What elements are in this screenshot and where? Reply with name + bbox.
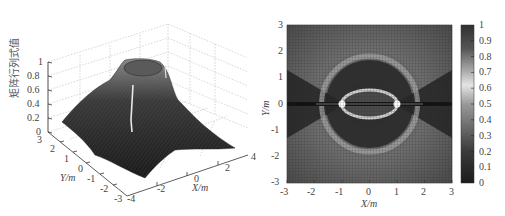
colorbar-tick-label: 0.3 [479, 130, 492, 141]
y-tick-label: 2 [278, 45, 283, 56]
heatmap-graphics [250, 0, 505, 216]
y-tick-label: 2 [50, 143, 55, 154]
z-tick-label: 1 [38, 56, 43, 67]
x-tick-label: -2 [307, 186, 315, 197]
x-tick-label: 1 [394, 186, 399, 197]
y-tick-label: 3 [278, 19, 283, 30]
y-tick-label: -1 [87, 173, 95, 184]
z-tick-label: 0.6 [27, 84, 40, 95]
colorbar-tick-label: 0.9 [479, 35, 492, 46]
colorbar-tick-label: 0.6 [479, 82, 492, 93]
z-tick-label: 0.4 [27, 98, 40, 109]
y-tick-label: -3 [271, 176, 279, 187]
x-axis-label: X/m [361, 198, 377, 209]
colorbar-tick-label: 1 [479, 19, 484, 30]
y-tick-label: 0 [278, 98, 283, 109]
heatmap-plot: 3 2 1 0 -1 -2 -3 Y/m -3 -2 -1 0 1 2 3 X/… [250, 0, 505, 216]
y-tick-label: -2 [271, 150, 279, 161]
y-tick-label: 1 [278, 71, 283, 82]
y-tick-label: 3 [37, 134, 42, 145]
surface-plot: 矩阵行列式值 1 0.8 0.6 0.4 0.2 0 3 2 1 0 -1 -2… [0, 0, 255, 216]
y-tick-label: -2 [100, 183, 108, 194]
colorbar-tick-label: 0 [479, 177, 484, 188]
y-axis-label: Y/m [260, 100, 271, 116]
z-tick-label: 0.2 [27, 112, 40, 123]
y-tick-label: -1 [271, 124, 279, 135]
colorbar-tick-label: 0.7 [479, 66, 492, 77]
colorbar-tick-label: 0.1 [479, 161, 492, 172]
x-tick-label: -3 [280, 186, 288, 197]
x-tick-label: 3 [449, 186, 454, 197]
x-tick-label: -2 [157, 183, 165, 194]
y-tick-label: 0 [78, 163, 83, 174]
x-axis-label: X/m [192, 182, 208, 193]
surface-plateau [124, 60, 162, 76]
z-tick-label: 0.8 [27, 70, 40, 81]
colorbar-tick-label: 0.5 [479, 98, 492, 109]
x-tick-label: 2 [421, 186, 426, 197]
x-tick-label: -4 [127, 193, 135, 204]
x-tick-label: 0 [366, 186, 371, 197]
colorbar-tick-label: 0.4 [479, 114, 492, 125]
z-axis-label: 矩阵行列式值 [6, 38, 21, 98]
colorbar-tick-label: 0.2 [479, 146, 492, 157]
y-axis-label: Y/m [60, 172, 76, 183]
y-tick-label: 1 [64, 153, 69, 164]
y-tick-label: -3 [114, 193, 122, 204]
colorbar-tick-label: 0.8 [479, 51, 492, 62]
x-tick-label: -1 [335, 186, 343, 197]
x-tick-label: 2 [225, 162, 230, 173]
